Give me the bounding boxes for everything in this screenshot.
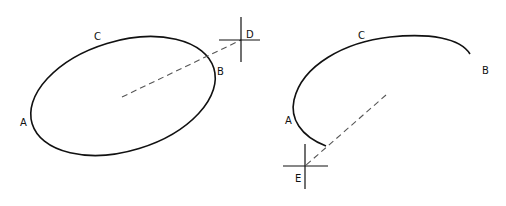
label-e: E (295, 173, 301, 184)
arc (293, 36, 470, 146)
label-b-right: B (482, 65, 489, 76)
crosshair-e (283, 144, 328, 189)
diagram-canvas: C D B A C B A E (0, 0, 506, 206)
dashed-line-to-e (305, 95, 386, 166)
label-a-left: A (20, 117, 27, 128)
label-c-right: C (358, 30, 365, 41)
right-figure: C B A E (283, 30, 489, 189)
label-a-right: A (285, 115, 292, 126)
crosshair-d (219, 17, 260, 62)
label-c-left: C (94, 31, 101, 42)
left-figure: C D B A (16, 16, 260, 177)
label-b-left: B (217, 66, 224, 77)
label-d: D (246, 29, 254, 40)
